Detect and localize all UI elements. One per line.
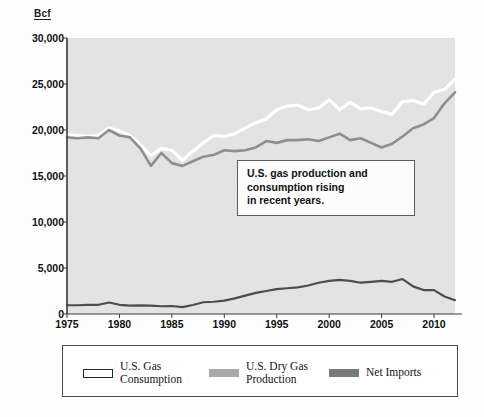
annotation-callout: U.S. gas production and consumption risi… [237, 160, 415, 216]
annotation-line-1: U.S. gas production and [247, 167, 406, 181]
legend-swatch-production-icon [209, 369, 239, 377]
legend-entry-net-imports: Net Imports [329, 366, 421, 379]
legend-entry-production: U.S. Dry Gas Production [209, 360, 308, 386]
legend-label-net-imports: Net Imports [366, 366, 421, 379]
legend-swatch-net-imports-icon [329, 369, 359, 377]
legend-label-consumption: U.S. Gas Consumption [120, 360, 182, 386]
gas-chart-figure: Bcf 30,00025,00020,00015,00010,0005,0000… [0, 0, 484, 417]
chart-legend: U.S. Gas Consumption U.S. Dry Gas Produc… [62, 345, 458, 397]
legend-entry-consumption: U.S. Gas Consumption [83, 360, 182, 386]
legend-swatch-consumption-icon [83, 369, 113, 378]
annotation-line-3: in recent years. [247, 194, 406, 208]
annotation-line-2: consumption rising [247, 181, 406, 195]
legend-label-production: U.S. Dry Gas Production [246, 360, 308, 386]
